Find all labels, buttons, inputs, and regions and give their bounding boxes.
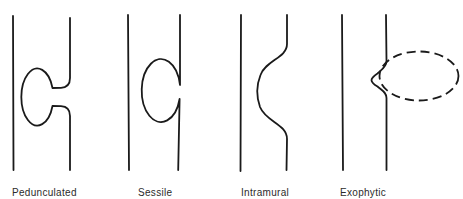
panel-label-sessile: Sessile — [138, 187, 172, 198]
wall-line-left — [128, 15, 129, 170]
panel-label-exophytic: Exophytic — [340, 187, 386, 198]
panel-pedunculated — [13, 16, 70, 170]
wall-line-with-intramural-bulge — [257, 15, 287, 170]
wall-line-left — [342, 15, 343, 170]
panel-intramural — [241, 15, 288, 171]
wall-line-with-sessile-polyp — [142, 15, 180, 170]
dashed-exophytic-mass-outline — [380, 52, 459, 101]
wall-line-with-pedunculated-polyp — [21, 18, 70, 170]
panel-exophytic — [342, 15, 459, 170]
panel-label-pedunculated: Pedunculated — [12, 187, 77, 198]
diagram-canvas — [0, 0, 463, 199]
wall-line-with-pucker — [372, 15, 387, 170]
wall-line-left — [13, 16, 14, 170]
lesion-types-diagram: Pedunculated Sessile Intramural Exophyti… — [0, 0, 463, 199]
panel-sessile — [128, 15, 180, 170]
wall-line-left — [241, 15, 242, 171]
panel-label-intramural: Intramural — [241, 187, 289, 198]
